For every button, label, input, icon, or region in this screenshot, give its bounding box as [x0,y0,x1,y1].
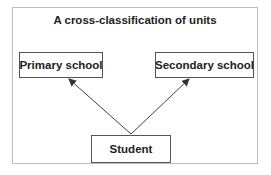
node-label: Primary school [19,59,102,71]
arrow-student-to-primary [69,79,131,134]
node-secondary-school: Secondary school [155,52,254,78]
node-student: Student [91,135,171,163]
node-primary-school: Primary school [19,52,103,78]
arrow-student-to-secondary [131,79,189,134]
node-label: Student [110,143,153,155]
node-label: Secondary school [155,59,254,71]
